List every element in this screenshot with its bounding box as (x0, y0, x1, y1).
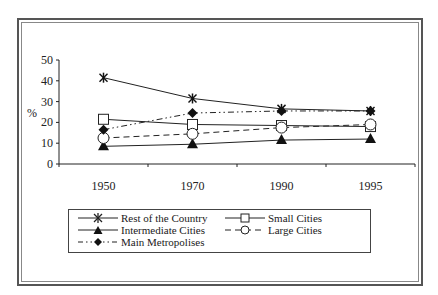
x-tick-label: 1970 (181, 179, 205, 193)
triangle-marker-icon (276, 134, 287, 144)
diamond-marker-icon (277, 106, 287, 116)
x-tick-label: 1995 (359, 179, 383, 193)
circle-marker-icon (365, 119, 376, 130)
legend-label: Small Cities (268, 212, 322, 224)
y-tick-label: 50 (41, 53, 53, 67)
square-marker-icon (99, 114, 109, 124)
legend-item-intermediate-cities: Intermediate Cities (78, 224, 205, 236)
series-line (104, 111, 371, 130)
circle-marker-icon (225, 225, 265, 235)
legend-label: Main Metropolises (121, 236, 204, 248)
x-tick-label: 1950 (92, 179, 116, 193)
x-tick-label: 1990 (270, 179, 294, 193)
y-tick-label: 30 (41, 95, 53, 109)
legend-label: Rest of the Country (121, 212, 207, 224)
diamond-marker-icon (78, 237, 118, 247)
series-line (104, 119, 371, 126)
legend-label: Intermediate Cities (121, 224, 205, 236)
square-marker-icon (225, 213, 265, 223)
circle-marker-icon (187, 128, 198, 139)
series-line (104, 139, 371, 146)
legend-item-large-cities: Large Cities (225, 224, 322, 236)
legend-item-rest-of-country: Rest of the Country (78, 212, 207, 224)
triangle-marker-icon (365, 133, 376, 143)
circle-marker-icon (276, 122, 287, 133)
y-tick-label: 0 (47, 157, 53, 171)
legend-item-main-metropolises: Main Metropolises (78, 236, 204, 248)
asterisk-marker-icon (100, 73, 108, 83)
legend-label: Large Cities (268, 224, 322, 236)
y-axis-label: % (27, 106, 37, 120)
y-tick-label: 20 (41, 115, 53, 129)
chart-legend: Rest of the Country Small Cities Interme… (68, 209, 371, 253)
triangle-marker-icon (78, 225, 118, 235)
asterisk-marker-icon (78, 213, 118, 223)
diamond-marker-icon (188, 108, 198, 118)
y-tick-label: 10 (41, 136, 53, 150)
series-line (104, 78, 371, 111)
legend-item-small-cities: Small Cities (225, 212, 322, 224)
y-tick-label: 40 (41, 74, 53, 88)
